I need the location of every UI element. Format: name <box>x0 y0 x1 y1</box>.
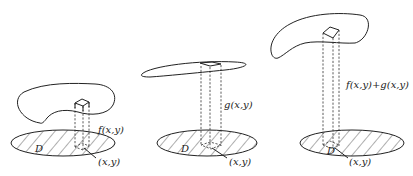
surface-patch <box>200 62 221 66</box>
surface-g <box>141 62 246 77</box>
label-f: f(x,y) <box>97 124 124 135</box>
surface-patch <box>323 27 339 38</box>
panel-f <box>11 83 115 158</box>
label-point: (x,y) <box>98 156 120 167</box>
surface-f-plus-g <box>271 14 369 59</box>
surface-f <box>17 83 114 123</box>
diagram-canvas: f(x,y) D (x,y) g(x,y) D (x,y) f(x,y)+g(x… <box>0 0 413 176</box>
label-region-d: D <box>180 143 189 154</box>
label-point: (x,y) <box>229 156 251 167</box>
label-g: g(x,y) <box>224 99 253 110</box>
label-region-d: D <box>326 145 335 156</box>
label-region-d: D <box>34 143 43 154</box>
label-f-plus-g: f(x,y)+g(x,y) <box>345 79 409 90</box>
surface-patch <box>75 99 89 106</box>
label-point: (x,y) <box>349 156 371 167</box>
